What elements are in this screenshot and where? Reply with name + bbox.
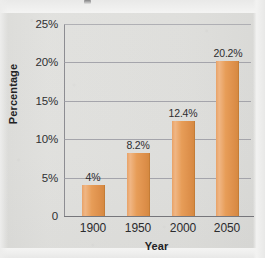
bar-value-2050: 20.2% bbox=[198, 47, 258, 59]
bar-chart-figure: Percentage 25% 20% 15% 10% 5% 0 4% 8.2% … bbox=[0, 0, 265, 258]
bar-1900[interactable] bbox=[82, 185, 105, 216]
x-axis-line bbox=[64, 216, 254, 217]
bar-2050[interactable] bbox=[216, 61, 239, 216]
x-tick-label-1950: 1950 bbox=[113, 221, 163, 235]
y-tick-label-0: 0 bbox=[14, 210, 58, 222]
y-tick-label-5: 5% bbox=[14, 172, 58, 184]
bar-1950[interactable] bbox=[127, 153, 150, 216]
bar-value-2000: 12.4% bbox=[153, 107, 213, 119]
y-tick-label-20: 20% bbox=[14, 56, 58, 68]
bar-value-1900: 4% bbox=[63, 171, 123, 183]
bar-value-1950: 8.2% bbox=[108, 139, 168, 151]
bar-2000[interactable] bbox=[172, 121, 195, 216]
gridline-25 bbox=[64, 24, 251, 25]
plot-area: 4% 8.2% 12.4% 20.2% bbox=[64, 24, 251, 216]
x-axis-title: Year bbox=[0, 240, 265, 252]
x-tick-label-2000: 2000 bbox=[158, 221, 208, 235]
y-tick-label-10: 10% bbox=[14, 133, 58, 145]
x-tick-label-2050: 2050 bbox=[202, 221, 252, 235]
y-tick-label-25: 25% bbox=[14, 18, 58, 30]
x-tick-label-1900: 1900 bbox=[68, 221, 118, 235]
y-tick-label-15: 15% bbox=[14, 95, 58, 107]
